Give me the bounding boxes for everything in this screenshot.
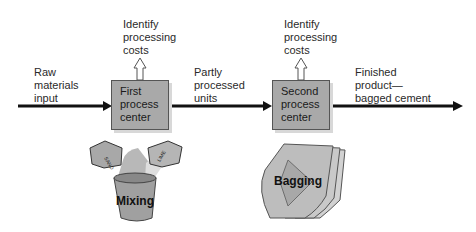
output-label: Finishedproduct—bagged cement (355, 66, 431, 105)
cost-label-1: Identifyprocessingcosts (123, 18, 176, 57)
mixing-illustration: SAND LIME (90, 141, 182, 221)
mixing-label: Mixing (116, 194, 154, 208)
input-label: Rawmaterialsinput (34, 66, 79, 105)
cost-label-2: Identifyprocessingcosts (284, 18, 337, 57)
flow-arrows: SAND LIME (0, 0, 476, 232)
middle-label: Partlyprocessedunits (194, 66, 245, 105)
second-process-center: Secondprocesscenter (272, 80, 330, 130)
first-process-center: Firstprocesscenter (111, 80, 169, 130)
bagging-label: Bagging (274, 174, 322, 188)
